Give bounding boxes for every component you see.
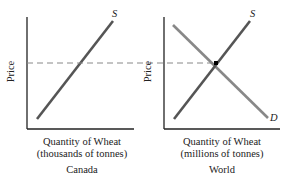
world-xlabel-line1: Quantity of Wheat [164, 136, 280, 148]
canada-title: Canada [27, 164, 137, 176]
world-demand-line [173, 25, 268, 118]
canada-supply-label: S [112, 8, 117, 20]
equilibrium-point [214, 61, 218, 65]
canada-ylabel: Price [5, 61, 16, 83]
canada-xlabel-line1: Quantity of Wheat [27, 136, 137, 148]
world-demand-label: D [270, 112, 278, 124]
world-ylabel: Price [142, 61, 153, 83]
world-title: World [164, 164, 280, 176]
world-xlabel-line2: (millions of tonnes) [164, 148, 280, 160]
canada-supply-line [37, 21, 113, 119]
canada-xlabel-line2: (thousands of tonnes) [22, 148, 142, 160]
world-supply-label: S [250, 8, 255, 20]
